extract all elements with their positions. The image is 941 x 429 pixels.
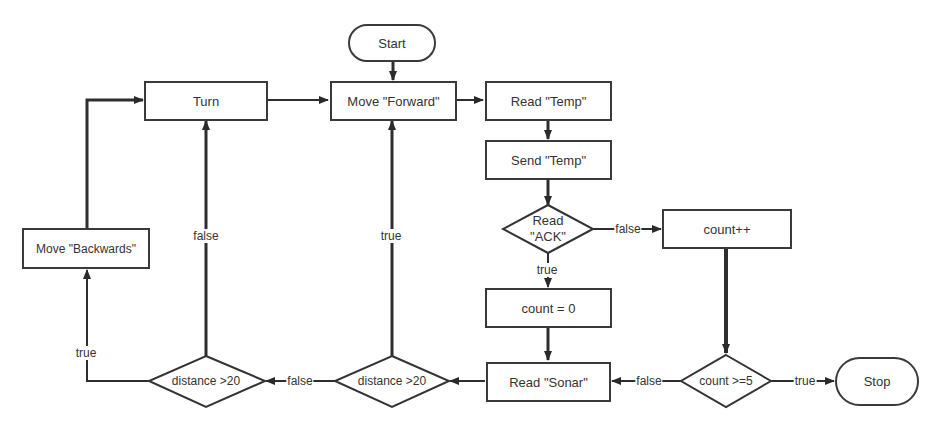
count-increment-node[interactable]: count++ <box>662 209 792 249</box>
stop-node[interactable]: Stop <box>835 357 919 406</box>
distance-check-2-decision[interactable]: distance >20 <box>172 373 240 389</box>
edge-dist2-true <box>87 270 149 381</box>
move-forward-node[interactable]: Move "Forward" <box>330 81 457 121</box>
count-check-decision[interactable]: count >=5 <box>699 373 752 389</box>
read-ack-decision[interactable]: Read "ACK" <box>530 213 566 245</box>
turn-node[interactable]: Turn <box>144 81 268 121</box>
edge-label-ack-true: true <box>536 263 559 277</box>
distance-check-1-decision[interactable]: distance >20 <box>358 373 426 389</box>
read-ack-label-line2: "ACK" <box>530 229 566 245</box>
read-temp-node[interactable]: Read "Temp" <box>485 81 612 121</box>
move-backwards-label: Move "Backwards" <box>36 242 136 256</box>
edge-label-count-check-true: true <box>794 374 817 388</box>
edge-label-distance1-true: true <box>380 229 403 243</box>
distance-check-2-label: distance >20 <box>172 374 240 388</box>
move-forward-label: Move "Forward" <box>347 94 439 109</box>
edge-label-ack-false: false <box>614 222 641 236</box>
count-check-label: count >=5 <box>699 374 752 388</box>
move-backwards-node[interactable]: Move "Backwards" <box>22 228 150 269</box>
read-sonar-label: Read "Sonar" <box>509 375 588 390</box>
edge-backwards-to-turn <box>87 100 143 229</box>
count-increment-label: count++ <box>704 222 751 237</box>
start-label: Start <box>378 36 405 51</box>
stop-label: Stop <box>864 374 891 389</box>
count-reset-label: count = 0 <box>522 301 576 316</box>
edge-label-distance2-false: false <box>192 229 219 243</box>
turn-label: Turn <box>193 94 219 109</box>
send-temp-label: Send "Temp" <box>511 153 586 168</box>
edge-label-distance2-true: true <box>75 346 98 360</box>
start-node[interactable]: Start <box>348 24 436 62</box>
connector-layer <box>0 0 941 429</box>
distance-check-1-label: distance >20 <box>358 374 426 388</box>
count-reset-node[interactable]: count = 0 <box>485 288 612 328</box>
read-ack-label-line1: Read <box>530 213 566 229</box>
edge-label-distance1-false: false <box>286 374 313 388</box>
read-temp-label: Read "Temp" <box>511 94 587 109</box>
read-sonar-node[interactable]: Read "Sonar" <box>486 362 611 402</box>
edge-label-count-check-false: false <box>635 374 662 388</box>
send-temp-node[interactable]: Send "Temp" <box>485 140 612 180</box>
